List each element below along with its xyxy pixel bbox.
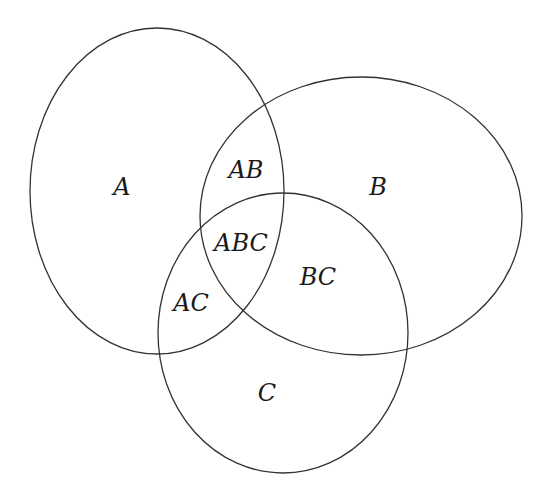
region-label-bc: BC <box>299 263 336 291</box>
venn-diagram: A AB B ABC BC AC C <box>0 0 547 496</box>
region-label-c: C <box>258 379 276 407</box>
region-label-ac: AC <box>171 289 209 317</box>
set-c-ellipse <box>158 193 408 473</box>
region-label-b: B <box>368 173 387 201</box>
region-label-a: A <box>111 173 130 201</box>
set-b-ellipse <box>200 77 522 355</box>
region-label-ab: AB <box>227 156 264 184</box>
set-a-ellipse <box>30 28 284 354</box>
region-label-abc: ABC <box>212 229 268 257</box>
